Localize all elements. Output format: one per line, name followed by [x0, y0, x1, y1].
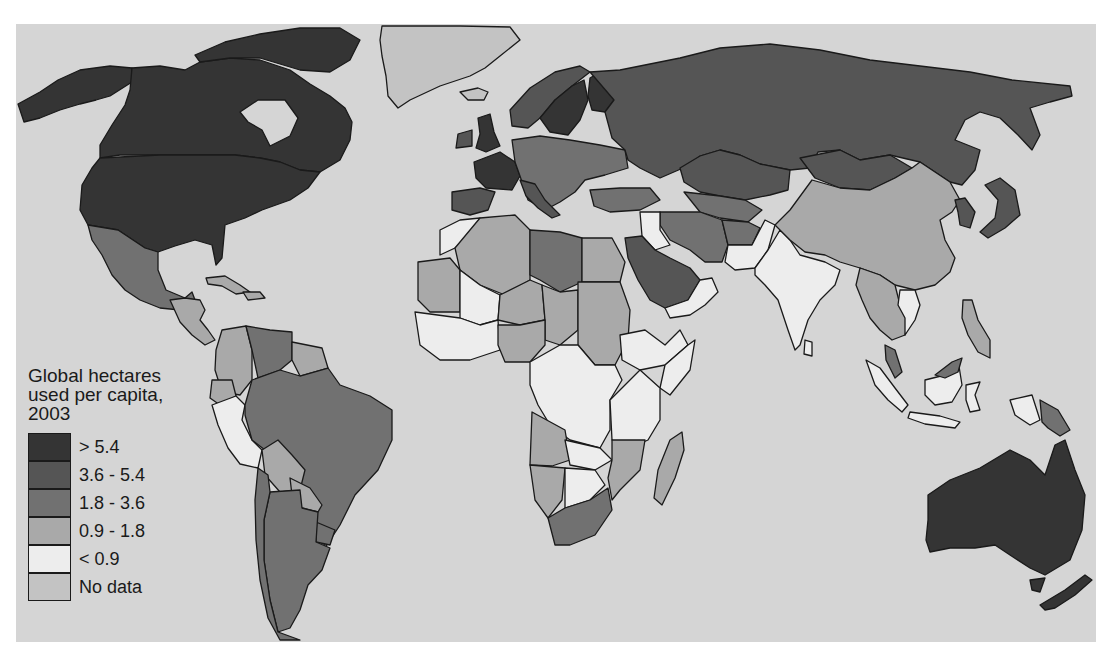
- region-iceland: [460, 88, 488, 100]
- region-hispaniola: [243, 292, 265, 300]
- legend-label: No data: [79, 577, 142, 598]
- legend-label: 3.6 - 5.4: [79, 465, 145, 486]
- legend-swatch: [28, 573, 71, 601]
- legend-swatch: [28, 489, 71, 517]
- legend-items: > 5.4 3.6 - 5.4 1.8 - 3.6 0.9 - 1.8 < 0.…: [28, 433, 218, 601]
- region-iberia: [452, 188, 495, 215]
- legend-label: < 0.9: [79, 549, 120, 570]
- region-japan: [980, 178, 1020, 238]
- region-australia: [926, 440, 1085, 575]
- region-venezuela: [246, 326, 292, 378]
- legend-swatch: [28, 433, 71, 461]
- legend-item-lt-0-9: < 0.9: [28, 545, 218, 573]
- region-new-guinea-west: [1010, 395, 1040, 425]
- region-iran: [660, 212, 728, 262]
- map-legend: Global hectares used per capita, 2003 > …: [28, 366, 218, 601]
- legend-title: Global hectares used per capita, 2003: [28, 366, 218, 423]
- region-korea: [955, 198, 975, 228]
- region-png: [1040, 400, 1070, 436]
- region-namibia: [530, 465, 565, 518]
- region-cuba: [206, 276, 250, 294]
- region-sumatra: [866, 360, 908, 412]
- legend-item-3-6-to-5-4: 3.6 - 5.4: [28, 461, 218, 489]
- legend-swatch: [28, 517, 71, 545]
- region-sri-lanka: [804, 340, 812, 356]
- region-sulawesi: [966, 382, 980, 412]
- legend-item-0-9-to-1-8: 0.9 - 1.8: [28, 517, 218, 545]
- legend-item-1-8-to-3-6: 1.8 - 3.6: [28, 489, 218, 517]
- region-malaysia-peninsula: [885, 345, 902, 378]
- region-chad: [542, 285, 578, 345]
- region-france: [474, 152, 520, 190]
- region-greenland: [380, 26, 520, 108]
- region-tasmania: [1030, 578, 1045, 592]
- region-ireland: [456, 130, 472, 148]
- region-philippines: [962, 300, 990, 358]
- region-egypt: [582, 238, 625, 282]
- region-mauritania: [418, 258, 460, 312]
- legend-item-gt-5-4: > 5.4: [28, 433, 218, 461]
- region-uk: [476, 114, 500, 152]
- region-alaska: [18, 66, 132, 122]
- legend-item-no-data: No data: [28, 573, 218, 601]
- legend-label: > 5.4: [79, 437, 120, 458]
- region-turkey: [590, 188, 660, 212]
- legend-swatch: [28, 545, 71, 573]
- legend-label: 1.8 - 3.6: [79, 493, 145, 514]
- region-madagascar: [654, 432, 684, 505]
- region-mozambique: [608, 440, 645, 500]
- region-new-zealand: [1040, 575, 1092, 610]
- legend-label: 0.9 - 1.8: [79, 521, 145, 542]
- region-central-america: [170, 298, 215, 345]
- legend-swatch: [28, 461, 71, 489]
- region-nigeria: [498, 320, 545, 362]
- region-java: [908, 412, 960, 428]
